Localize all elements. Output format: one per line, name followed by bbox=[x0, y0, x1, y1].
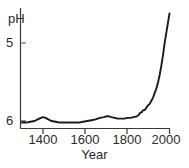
x-tick-label-1800: 1800 bbox=[113, 133, 142, 146]
x-tick-label-1600: 1600 bbox=[71, 133, 100, 146]
ph-series-line bbox=[22, 13, 170, 122]
y-tick-label-6: 6 bbox=[6, 114, 13, 127]
x-axis-title: Year bbox=[0, 148, 189, 161]
y-axis-title: pH bbox=[8, 12, 25, 25]
y-tick-label-5: 5 bbox=[6, 36, 13, 49]
x-tick-label-2000: 2000 bbox=[152, 133, 181, 146]
ph-vs-year-chart: pH Year 5 6 1400 1600 1800 2000 bbox=[0, 0, 189, 168]
x-tick-label-1400: 1400 bbox=[29, 133, 58, 146]
